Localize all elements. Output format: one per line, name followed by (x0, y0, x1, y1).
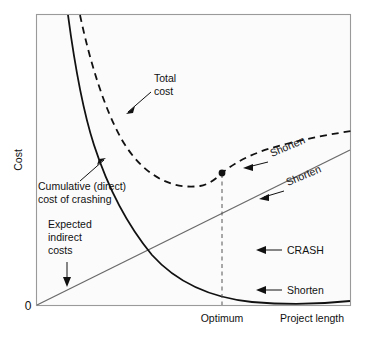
optimum-tick-label: Optimum (201, 312, 244, 324)
project-crashing-cost-chart: Cost 0 Optimum Project length Total cost… (0, 0, 372, 339)
shorten-bottom-label: Shorten (287, 284, 324, 296)
optimum-point-marker (219, 170, 226, 177)
total-cost-label-line2: cost (154, 85, 173, 97)
expected-indirect-label-line1: Expected (48, 218, 92, 230)
total-cost-label-line1: Total (154, 72, 176, 84)
chart-svg: Cost 0 Optimum Project length Total cost… (0, 0, 372, 339)
expected-indirect-label-line2: indirect (48, 231, 82, 243)
cumulative-cost-label-line1: Cumulative (direct) (38, 180, 126, 192)
crash-label: CRASH (287, 244, 324, 256)
y-axis-label: Cost (12, 149, 24, 171)
origin-label: 0 (25, 299, 32, 313)
cumulative-cost-label-line2: cost of crashing (38, 193, 112, 205)
plot-frame (37, 15, 351, 306)
x-axis-label: Project length (280, 312, 344, 324)
expected-indirect-label-line3: costs (48, 244, 73, 256)
